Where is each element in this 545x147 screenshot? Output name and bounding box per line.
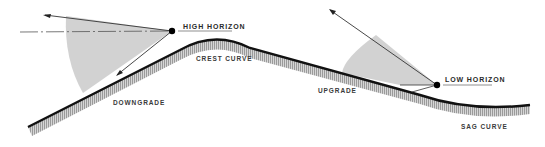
sag-curve-label: SAG CURVE — [461, 123, 508, 130]
upper-sight-arrowhead-icon — [43, 14, 51, 18]
right-lower-sight-arrow-line — [412, 85, 437, 92]
upgrade-label: UPGRADE — [318, 87, 357, 94]
right-upper-sight-arrowhead-icon — [329, 9, 336, 15]
high-horizon-eye-dot — [169, 28, 175, 34]
crest-curve-label: CREST CURVE — [196, 55, 252, 62]
road-profile-diagram: HIGH HORIZON LOW HORIZON CREST CURVE DOW… — [0, 0, 545, 147]
high-horizon-label: HIGH HORIZON — [183, 23, 246, 30]
low-horizon-label: LOW HORIZON — [445, 76, 505, 83]
low-horizon-eye-dot — [434, 82, 440, 88]
downgrade-label: DOWNGRADE — [113, 99, 165, 106]
